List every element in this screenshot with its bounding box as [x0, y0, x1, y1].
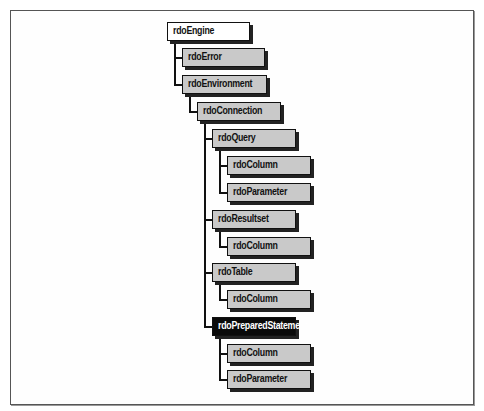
node-label: rdoEnvironment [188, 78, 252, 89]
node-label: rdoParameter [233, 186, 287, 197]
node-label: rdoQuery [218, 132, 256, 143]
node-rdo-prepared-parameter: rdoParameter [227, 370, 311, 389]
connector-query-trunk [219, 148, 221, 194]
connector-prepared-trunk [219, 336, 221, 381]
node-rdo-query-column: rdoColumn [227, 156, 311, 175]
node-rdo-environment: rdoEnvironment [182, 75, 267, 94]
node-label: rdoParameter [233, 373, 287, 384]
node-rdo-resultset-column: rdoColumn [227, 237, 311, 256]
node-label: rdoColumn [233, 159, 278, 170]
node-label: rdoEngine [173, 25, 214, 36]
connector-engine-trunk [174, 41, 176, 86]
node-rdo-query: rdoQuery [212, 129, 296, 148]
node-label: rdoResultset [218, 213, 269, 224]
node-label: rdoPreparedStatement [218, 320, 308, 331]
node-label: rdoError [188, 51, 222, 62]
node-rdo-error: rdoError [182, 48, 265, 67]
node-label: rdoTable [218, 266, 252, 277]
node-rdo-prepared-column: rdoColumn [227, 344, 311, 363]
node-label: rdoConnection [203, 105, 262, 116]
node-rdo-query-parameter: rdoParameter [227, 183, 311, 202]
node-rdo-resultset: rdoResultset [212, 210, 296, 229]
node-rdo-table: rdoTable [212, 263, 296, 282]
node-rdo-engine: rdoEngine [167, 22, 250, 41]
connector-connection-trunk [204, 121, 206, 327]
node-label: rdoColumn [233, 347, 278, 358]
node-rdo-table-column: rdoColumn [227, 290, 311, 309]
node-label: rdoColumn [233, 240, 278, 251]
node-rdo-prepared-statement: rdoPreparedStatement [212, 317, 296, 336]
node-rdo-connection: rdoConnection [197, 102, 281, 121]
node-label: rdoColumn [233, 293, 278, 304]
